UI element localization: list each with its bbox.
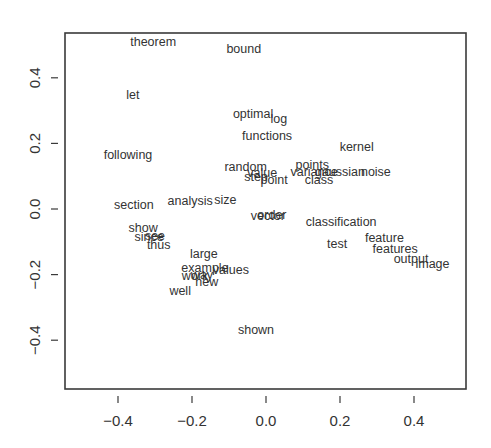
word-label-new: new [195, 275, 219, 289]
word-label-kernel: kernel [340, 140, 374, 154]
word-label-let: let [126, 88, 140, 102]
word-label-theorem: theorem [130, 35, 176, 49]
word-label-optimal: optimal [233, 107, 273, 121]
word-label-shown: shown [238, 323, 274, 337]
x-tick-label: 0.4 [404, 412, 425, 429]
word-label-section: section [114, 198, 154, 212]
word-label-analysis: analysis [168, 194, 213, 208]
x-tick-label: 0.2 [330, 412, 351, 429]
x-tick-label: −0.2 [177, 412, 207, 429]
word-labels: theoremboundletoptimallogfunctionskernel… [104, 35, 450, 336]
word-label-image: image [415, 257, 449, 271]
x-tick-label: 0.0 [256, 412, 277, 429]
word-label-class: class [305, 173, 333, 187]
word-label-log: log [271, 112, 288, 126]
word-label-large: large [190, 247, 218, 261]
word-label-thus: thus [147, 238, 171, 252]
y-tick-label: 0.2 [26, 133, 43, 154]
y-tick-label: 0.4 [26, 67, 43, 88]
y-tick-label: 0.0 [26, 199, 43, 220]
word-label-order: order [257, 208, 286, 222]
word-label-functions: functions [242, 129, 292, 143]
word-label-test: test [327, 237, 348, 251]
word-label-point: point [261, 173, 289, 187]
word-label-classification: classification [306, 215, 377, 229]
word-label-noise: noise [361, 165, 391, 179]
y-axis: −0.4−0.20.00.20.4 [26, 67, 58, 355]
y-tick-label: −0.4 [26, 325, 43, 355]
x-tick-label: −0.4 [103, 412, 133, 429]
word-embedding-scatter-plot: −0.4−0.20.00.20.4 −0.4−0.20.00.20.4 theo… [0, 0, 491, 448]
word-label-well: well [168, 284, 191, 298]
word-label-following: following [104, 148, 153, 162]
word-label-size: size [214, 193, 236, 207]
y-tick-label: −0.2 [26, 260, 43, 290]
x-axis: −0.4−0.20.00.20.4 [103, 396, 424, 429]
word-label-bound: bound [226, 42, 261, 56]
